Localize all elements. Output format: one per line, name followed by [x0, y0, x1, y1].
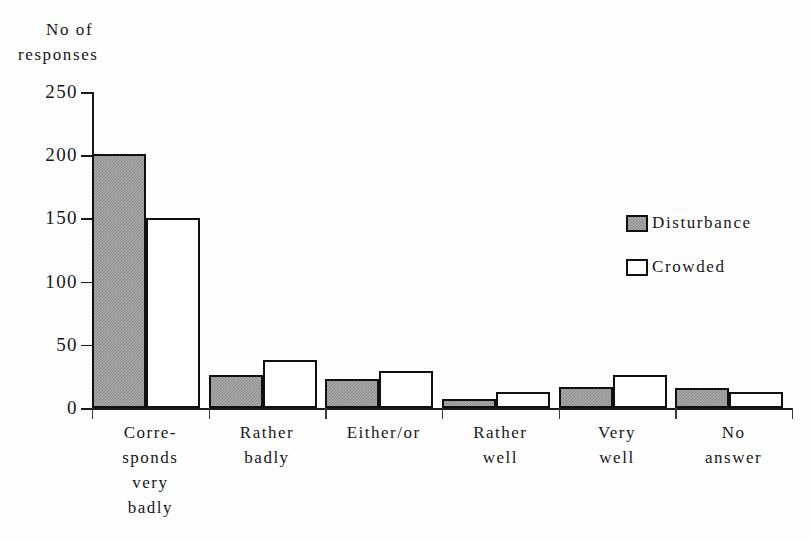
legend-swatch-icon: [626, 259, 648, 276]
legend-label: Crowded: [652, 257, 726, 277]
y-axis-tick-label: 250: [45, 81, 78, 103]
legend-label: Disturbance: [652, 213, 752, 233]
chart-legend: DisturbanceCrowded: [626, 213, 752, 301]
x-axis-tick: [92, 408, 93, 419]
x-axis-category-label: Ratherwell: [442, 420, 559, 470]
y-axis-tick: [81, 92, 92, 94]
category-label-line: very: [92, 470, 209, 495]
y-axis-tick-label: 150: [45, 207, 78, 229]
x-axis-category-label: Verywell: [559, 420, 676, 470]
bar-crowded-4: [613, 375, 667, 408]
category-label-line: answer: [675, 445, 792, 470]
category-label-line: Rather: [442, 420, 559, 445]
category-label-line: badly: [209, 445, 326, 470]
bar-crowded-0: [146, 218, 200, 408]
y-axis-tick: [81, 155, 92, 157]
y-axis-tick: [81, 408, 92, 410]
y-axis-tick: [81, 282, 92, 284]
category-label-line: sponds: [92, 445, 209, 470]
y-axis-tick: [81, 218, 92, 220]
category-label-line: well: [559, 445, 676, 470]
x-axis-category-label: Ratherbadly: [209, 420, 326, 470]
bar-disturbance-3: [442, 399, 496, 408]
category-label-line: well: [442, 445, 559, 470]
y-axis-title-line-2: responses: [18, 45, 99, 65]
x-axis-tick: [675, 408, 676, 419]
bar-disturbance-1: [209, 375, 263, 408]
category-label-line: Very: [559, 420, 676, 445]
y-axis-tick-label: 200: [45, 144, 78, 166]
bar-disturbance-4: [559, 387, 613, 408]
bar-disturbance-5: [675, 388, 729, 408]
y-axis-tick: [81, 345, 92, 347]
category-label-line: No: [675, 420, 792, 445]
y-axis-tick-label: 50: [56, 334, 78, 356]
bar-chart: No of responses 250200150100500 Corre-sp…: [0, 0, 810, 541]
x-axis-tick: [559, 408, 560, 419]
category-label-line: Corre-: [92, 420, 209, 445]
x-axis-category-label: Noanswer: [675, 420, 792, 470]
x-axis-tick: [442, 408, 443, 419]
category-label-line: badly: [92, 495, 209, 520]
bar-crowded-1: [263, 360, 317, 408]
y-axis-tick-label: 0: [67, 397, 78, 419]
x-axis-category-label: Either/or: [325, 420, 442, 445]
category-label-line: Rather: [209, 420, 326, 445]
bar-group: [325, 92, 442, 408]
bar-disturbance-0: [92, 154, 146, 408]
y-axis-tick-labels: 250200150100500: [0, 92, 78, 409]
bar-crowded-3: [496, 392, 550, 408]
legend-swatch-icon: [626, 215, 648, 232]
x-axis-tick: [792, 408, 793, 419]
x-axis-tick: [209, 408, 210, 419]
legend-item-disturbance[interactable]: Disturbance: [626, 213, 752, 233]
legend-item-crowded[interactable]: Crowded: [626, 257, 752, 277]
bar-group: [442, 92, 559, 408]
x-axis-tick: [325, 408, 326, 419]
y-axis-tick-label: 100: [45, 271, 78, 293]
bar-group: [92, 92, 209, 408]
y-axis-title-line-1: No of: [46, 20, 93, 40]
bar-crowded-5: [729, 392, 783, 408]
x-axis-category-label: Corre-spondsverybadly: [92, 420, 209, 520]
bar-disturbance-2: [325, 379, 379, 408]
bar-crowded-2: [379, 371, 433, 408]
bar-group: [209, 92, 326, 408]
category-label-line: Either/or: [325, 420, 442, 445]
